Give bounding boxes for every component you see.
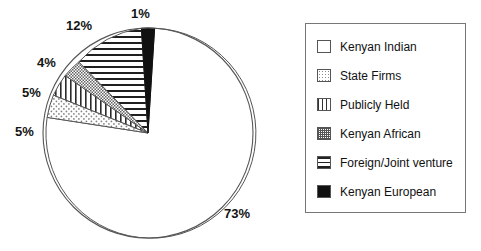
legend-label-foreign-joint-venture: Foreign/Joint venture	[340, 157, 453, 169]
pie-label-kenyan-indian: 73%	[224, 206, 250, 221]
legend-swatch-checkered-icon	[317, 127, 331, 140]
legend-item-kenyan-indian: Kenyan Indian	[306, 32, 465, 61]
legend-swatch-dots-icon	[317, 69, 331, 82]
legend-swatch-solid-black-icon	[317, 185, 331, 198]
legend-item-kenyan-african: Kenyan African	[306, 119, 465, 148]
legend-item-publicly-held: Publicly Held	[306, 90, 465, 119]
legend-item-kenyan-european: Kenyan European	[306, 177, 465, 206]
legend-label-kenyan-african: Kenyan African	[340, 128, 421, 140]
pie-chart-figure: 1% 12% 4% 5% 5% 73% Kenyan Indian State …	[0, 0, 481, 251]
legend: Kenyan Indian State Firms Publicly Held …	[305, 23, 466, 213]
legend-label-kenyan-indian: Kenyan Indian	[340, 41, 417, 53]
pie-label-publicly-held: 5%	[22, 85, 41, 100]
pie-label-state-firms: 5%	[15, 124, 34, 139]
legend-label-kenyan-european: Kenyan European	[340, 186, 436, 198]
pie-label-foreign-joint-venture: 12%	[66, 18, 92, 33]
legend-swatch-horizontal-lines-icon	[317, 156, 331, 169]
legend-swatch-white-icon	[317, 40, 331, 53]
legend-swatch-vertical-lines-icon	[317, 98, 331, 111]
legend-label-publicly-held: Publicly Held	[340, 99, 409, 111]
pie-label-kenyan-european: 1%	[131, 6, 150, 21]
legend-item-foreign-joint-venture: Foreign/Joint venture	[306, 148, 465, 177]
pie-label-kenyan-african: 4%	[37, 55, 56, 70]
legend-item-state-firms: State Firms	[306, 61, 465, 90]
legend-label-state-firms: State Firms	[340, 70, 401, 82]
